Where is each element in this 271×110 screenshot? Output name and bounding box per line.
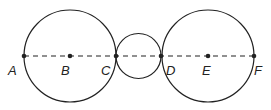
label-c: C [101,63,111,78]
point-d [159,54,164,59]
circles-diagram: ABCDEF [0,0,271,110]
label-a: A [7,63,17,78]
label-f: F [254,63,263,78]
circles-group [24,10,254,102]
label-b: B [61,63,70,78]
point-f [252,54,257,59]
point-c [114,54,119,59]
point-a [22,54,27,59]
point-b [68,54,73,59]
label-d: D [166,63,175,78]
label-e: E [202,63,211,78]
points-group: ABCDEF [7,54,263,78]
point-e [206,54,211,59]
